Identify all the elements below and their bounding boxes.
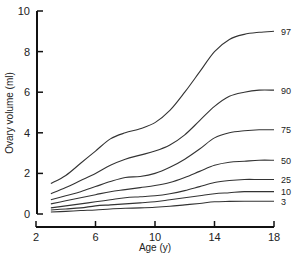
y-tick-label: 6 [24, 86, 30, 98]
y-tick-label: 0 [24, 208, 30, 220]
percentile-curve-90 [51, 90, 274, 194]
percentile-curve-75 [51, 130, 274, 200]
y-axis-label: Ovary volume (ml) [4, 72, 15, 154]
percentile-label-90: 90 [281, 86, 291, 96]
percentile-labels: 9790755025103 [281, 27, 291, 207]
y-tick-label: 8 [24, 46, 30, 58]
percentile-label-50: 50 [281, 156, 291, 166]
y-tick-label: 4 [24, 127, 30, 139]
x-tick-label: 14 [208, 231, 220, 243]
y-tick-label: 10 [18, 5, 30, 17]
percentile-curve-50 [51, 160, 274, 204]
x-tick-label: 18 [268, 231, 280, 243]
percentile-label-75: 75 [281, 125, 291, 135]
x-axis-label: Age (y) [139, 242, 171, 253]
percentile-curve-97 [51, 31, 274, 183]
percentile-curves [51, 31, 274, 212]
y-tick-label: 2 [24, 167, 30, 179]
percentile-label-25: 25 [281, 175, 291, 185]
ovary-volume-percentile-chart: 024681026101418 9790755025103 Age (y) Ov… [0, 0, 292, 259]
percentile-label-3: 3 [281, 197, 286, 207]
x-tick-label: 6 [92, 231, 98, 243]
x-tick-label: 2 [33, 231, 39, 243]
percentile-label-10: 10 [281, 187, 291, 197]
percentile-label-97: 97 [281, 27, 291, 37]
